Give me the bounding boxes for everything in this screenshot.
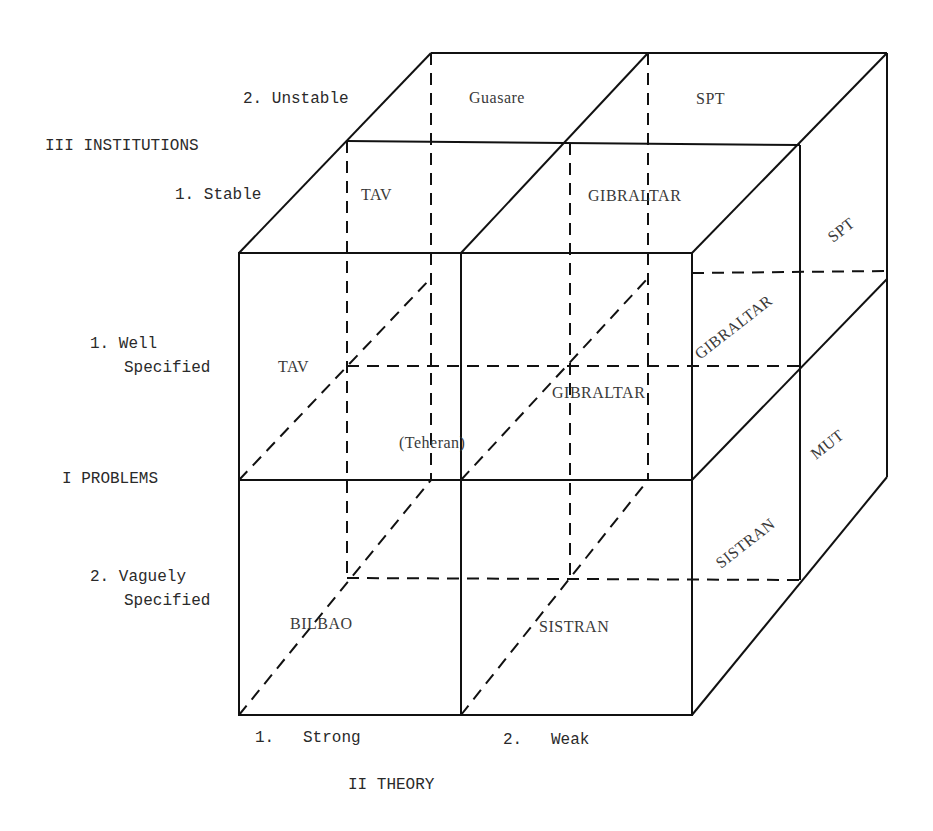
front-face (239, 253, 692, 715)
top-right-diagonal (692, 53, 887, 253)
top-middle-edge (347, 141, 800, 145)
hidden-left-lower-diagonal (239, 480, 431, 715)
axis-labels: 2. Unstable III INSTITUTIONS 1. Stable 1… (45, 90, 589, 794)
cell-top-unstable-weak: SPT (696, 90, 725, 107)
top-center-diagonal (461, 53, 648, 253)
cell-side-lower-front: SISTRAN (712, 515, 778, 572)
hidden-center-upper-diagonal (461, 278, 648, 480)
theory-axis-title: II THEORY (348, 776, 435, 794)
cell-top-unstable-strong: Guasare (469, 89, 525, 106)
problems-level-vague-line1: 2. Vaguely (90, 568, 186, 586)
institutions-axis-title: III INSTITUTIONS (45, 137, 199, 155)
cell-top-stable-weak: GIBRALTAR (588, 187, 681, 204)
cell-side-lower-back: MUT (807, 426, 847, 462)
hidden-back-problems-horizontal (692, 271, 887, 273)
cell-side-upper-front: GIBRALTAR (691, 292, 775, 363)
problems-level-well-line1: 1. Well (90, 335, 157, 353)
institutions-level-unstable: 2. Unstable (243, 90, 349, 108)
cell-front-center: (Teheran) (399, 434, 465, 452)
side-bottom-diagonal (692, 477, 887, 715)
cell-top-stable-strong: TAV (361, 186, 392, 203)
theory-level-strong: 1. Strong (255, 729, 361, 747)
top-left-diagonal (239, 53, 431, 253)
problems-axis-title: I PROBLEMS (62, 470, 158, 488)
side-problems-diagonal (692, 279, 887, 480)
cell-front-well-strong: TAV (278, 358, 309, 375)
cell-front-well-weak: GIBRALTAR (552, 384, 645, 401)
hidden-middle-bottom-horizontal (347, 578, 800, 580)
cell-front-vague-weak: SISTRAN (539, 618, 609, 635)
theory-level-weak: 2. Weak (503, 731, 589, 749)
problems-level-vague-line2: Specified (124, 592, 210, 610)
hidden-center-lower-diagonal (461, 480, 648, 715)
cell-side-upper-back: SPT (824, 214, 857, 245)
problems-level-well-line2: Specified (124, 359, 210, 377)
classification-cube-diagram: 2. Unstable III INSTITUTIONS 1. Stable 1… (0, 0, 933, 831)
institutions-level-stable: 1. Stable (175, 186, 261, 204)
cell-front-vague-strong: BILBAO (290, 615, 353, 632)
